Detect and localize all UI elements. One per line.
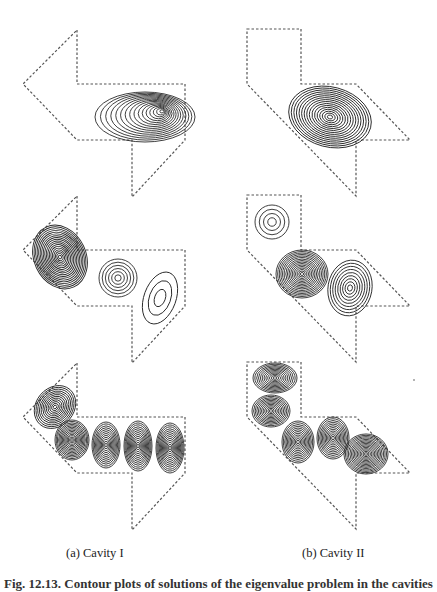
cavity-boundary [23, 30, 185, 197]
mode-panel-1 [23, 30, 195, 197]
contour-cell [253, 363, 297, 393]
contour-cell [344, 434, 388, 474]
contour-cell [92, 422, 120, 468]
mode-panel-3 [23, 363, 185, 530]
contour-cell [255, 205, 289, 239]
contour-cell [55, 420, 89, 460]
cavity-boundary [247, 29, 410, 196]
contour-cell [156, 423, 184, 473]
contour-cell [99, 259, 137, 297]
cavity-boundary [23, 196, 185, 363]
figure-caption-clipped: Fig. 12.13. Contour plots of solutions o… [4, 576, 433, 592]
contour-cell [276, 250, 328, 298]
cavity-i-column [22, 30, 195, 530]
subcaption-cavity-ii: (b) Cavity II [302, 546, 364, 561]
contour-cell [136, 267, 185, 329]
mode-panel-2 [22, 196, 185, 363]
contour-cell [124, 421, 152, 471]
cavity-boundary [247, 195, 410, 362]
cavity-ii-column [247, 29, 410, 529]
contour-cell [282, 421, 314, 463]
stray-dot [413, 379, 415, 381]
contour-cell [323, 257, 376, 320]
mode-panel-2 [247, 195, 410, 362]
contour-cell [95, 92, 195, 142]
mode-panel-3 [247, 362, 410, 529]
subcaption-cavity-i: (a) Cavity I [66, 546, 124, 561]
contour-cell [22, 216, 97, 298]
mode-panel-1 [247, 29, 410, 196]
contour-cell [282, 77, 379, 157]
contour-cell [252, 395, 290, 427]
